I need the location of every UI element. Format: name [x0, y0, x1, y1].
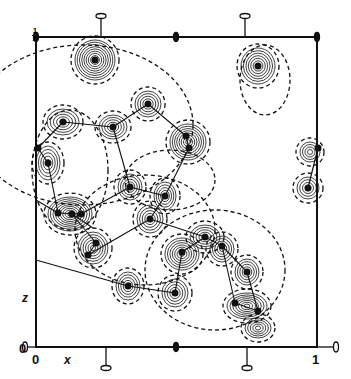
atom-dot	[232, 300, 239, 307]
density-contour	[308, 150, 313, 155]
atom-dot	[244, 269, 251, 276]
atom-dot	[255, 308, 262, 315]
atom-dot	[202, 234, 209, 241]
z-quarter-numerator: 1	[33, 26, 37, 35]
atom-dot	[78, 211, 85, 218]
twofold-axis-top-left-icon	[96, 14, 106, 19]
bond-line	[165, 148, 189, 196]
atom-dot	[183, 133, 190, 140]
density-contour	[255, 326, 260, 330]
x-origin-label: 0	[32, 352, 39, 367]
atom-dot	[85, 252, 92, 259]
atom-dot	[179, 249, 186, 256]
symmetry-centre-icon	[174, 33, 179, 42]
atom-dot	[110, 124, 117, 131]
density-contour-layer	[32, 36, 324, 342]
bond-line	[148, 104, 186, 136]
atom-dot	[186, 145, 193, 152]
atom-dot	[305, 185, 312, 192]
atom-dot	[125, 283, 132, 290]
twofold-axis-top-right-icon	[240, 14, 250, 19]
atom-dot	[172, 290, 179, 297]
x-end-label: 1	[312, 352, 319, 367]
atom-dot	[127, 184, 134, 191]
atom-dot	[255, 63, 262, 70]
atom-dot	[93, 240, 100, 247]
density-contour	[305, 147, 315, 157]
atom-dot	[162, 193, 169, 200]
atom-dot	[145, 101, 152, 108]
twofold-axis-right-icon	[334, 342, 339, 352]
atom-dot	[55, 210, 62, 217]
symmetry-centre-icon	[174, 343, 179, 352]
zero-contour-layer	[0, 45, 290, 330]
symmetry-centre-icon	[315, 33, 320, 42]
z-axis-label: z	[22, 291, 28, 305]
bond-line	[88, 219, 150, 255]
atom-dot	[45, 160, 52, 167]
x-axis-label: x	[64, 353, 71, 367]
z-quarter-denominator: 4	[33, 35, 37, 44]
z-quarter-label: 1 4	[31, 27, 39, 44]
atom-dot	[219, 243, 226, 250]
z-origin-label: 0	[19, 341, 26, 356]
twofold-axis-bottom-right-icon	[242, 366, 252, 371]
contour-map-figure	[0, 0, 351, 379]
atom-dot	[92, 57, 99, 64]
twofold-axis-bottom-left-icon	[101, 366, 111, 371]
density-contour	[253, 324, 263, 332]
atom-dot	[60, 119, 67, 126]
atom-dot	[147, 216, 154, 223]
symmetry-symbols	[23, 14, 339, 371]
atom-dot	[69, 211, 76, 218]
